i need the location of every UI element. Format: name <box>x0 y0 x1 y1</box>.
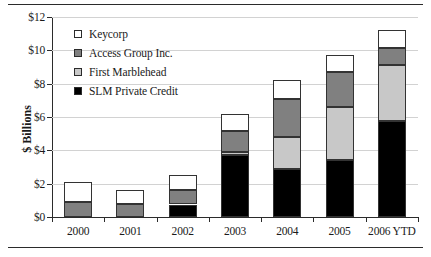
legend-item: SLM Private Credit <box>74 81 224 100</box>
bar-stack <box>221 17 249 217</box>
y-tick-label: $4 <box>34 144 45 156</box>
x-tick-mark <box>418 217 419 222</box>
legend-swatch-icon <box>74 68 82 76</box>
bar-segment <box>64 202 92 217</box>
legend-item: First Marblehead <box>74 62 224 81</box>
chart-legend: KeycorpAccess Group Inc.First Marblehead… <box>74 24 224 100</box>
bar-segment <box>378 30 406 48</box>
x-tick-label: 2004 <box>276 225 298 237</box>
x-tick-label: 2001 <box>119 225 141 237</box>
x-tick-label: 2006 YTD <box>368 225 415 237</box>
y-tick-label: $0 <box>34 211 45 223</box>
x-tick-label: 2002 <box>172 225 194 237</box>
legend-swatch-icon <box>74 87 82 95</box>
bar-segment <box>326 55 354 72</box>
legend-item: Access Group Inc. <box>74 43 224 62</box>
bar-stack <box>273 17 301 217</box>
bar-segment <box>64 182 92 202</box>
legend-label: Keycorp <box>89 28 128 40</box>
x-tick-mark <box>261 217 262 222</box>
y-tick-mark <box>47 50 52 51</box>
x-tick-mark <box>209 217 210 222</box>
bar-segment <box>169 175 197 190</box>
y-tick-mark <box>47 84 52 85</box>
legend-label: SLM Private Credit <box>89 85 178 97</box>
bar-segment <box>273 99 301 137</box>
x-tick-mark <box>313 217 314 222</box>
bar-segment <box>221 131 249 152</box>
x-tick-mark <box>366 217 367 222</box>
bar-segment <box>116 190 144 204</box>
y-tick-label: $12 <box>28 11 45 23</box>
x-tick-mark <box>157 217 158 222</box>
bottom-horizontal-rule <box>8 247 423 248</box>
y-tick-label: $8 <box>34 78 45 90</box>
bar-segment <box>221 152 249 155</box>
legend-item: Keycorp <box>74 24 224 43</box>
x-tick-label: 2005 <box>328 225 350 237</box>
bar-segment <box>221 155 249 218</box>
bar-segment <box>326 72 354 107</box>
bar-segment <box>116 204 144 217</box>
y-tick-mark <box>47 17 52 18</box>
y-tick-label: $2 <box>34 178 45 190</box>
x-axis-line <box>52 217 419 218</box>
bar-stack <box>378 17 406 217</box>
bar-segment <box>273 137 301 169</box>
bar-segment <box>326 160 354 217</box>
y-tick-mark <box>47 117 52 118</box>
bar-segment <box>378 121 406 217</box>
legend-label: Access Group Inc. <box>89 47 173 59</box>
bar-segment <box>169 190 197 204</box>
y-tick-label: $10 <box>28 44 45 56</box>
bar-segment <box>273 169 301 217</box>
x-tick-mark <box>104 217 105 222</box>
bar-segment <box>169 205 197 218</box>
y-tick-mark <box>47 184 52 185</box>
legend-swatch-icon <box>74 30 82 38</box>
x-tick-label: 2000 <box>67 225 89 237</box>
bar-segment <box>326 107 354 160</box>
legend-label: First Marblehead <box>89 66 166 78</box>
bar-segment <box>378 65 406 121</box>
x-tick-label: 2003 <box>224 225 246 237</box>
bar-segment <box>221 114 249 132</box>
y-tick-label: $6 <box>34 111 45 123</box>
bar-stack <box>326 17 354 217</box>
bar-segment <box>273 80 301 99</box>
bar-segment <box>378 48 406 66</box>
legend-swatch-icon <box>74 49 82 57</box>
chart-figure: $ Billions $0$2$4$6$8$10$12 200020012002… <box>0 0 431 257</box>
y-tick-mark <box>47 150 52 151</box>
x-tick-mark <box>52 217 53 222</box>
top-horizontal-rule <box>8 4 423 5</box>
